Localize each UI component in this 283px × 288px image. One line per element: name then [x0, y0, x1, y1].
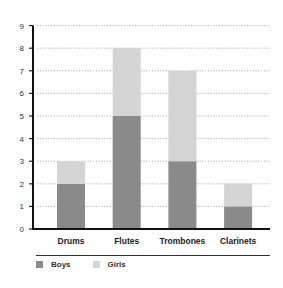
- y-tick-label: 3: [20, 157, 25, 166]
- legend-label-boys: Boys: [51, 260, 71, 269]
- bar-girls-trombones: [168, 71, 196, 161]
- stacked-bar-chart: 0123456789 DrumsFlutesTrombonesClarinets: [0, 0, 283, 288]
- y-tick-label: 6: [20, 89, 25, 98]
- y-tick-label: 4: [20, 135, 25, 144]
- legend-divider: [36, 255, 270, 256]
- bar-boys-clarinets: [224, 206, 252, 229]
- bar-girls-flutes: [113, 48, 141, 116]
- y-tick-label: 2: [20, 180, 25, 189]
- x-category-label: Clarinets: [220, 236, 257, 246]
- x-category-label: Trombones: [159, 236, 205, 246]
- legend-swatch-girls: [93, 261, 100, 268]
- y-tick-label: 1: [20, 202, 25, 211]
- x-category-label: Drums: [58, 236, 85, 246]
- y-tick-label: 0: [20, 225, 25, 234]
- y-axis: 0123456789: [20, 22, 33, 234]
- legend-item-girls: Girls: [93, 260, 126, 269]
- bar-boys-flutes: [113, 116, 141, 229]
- bar-boys-trombones: [168, 161, 196, 229]
- y-tick-label: 9: [20, 22, 25, 31]
- bar-girls-clarinets: [224, 184, 252, 207]
- legend: Boys Girls: [36, 260, 148, 269]
- bar-boys-drums: [57, 184, 85, 229]
- legend-label-girls: Girls: [108, 260, 126, 269]
- y-tick-label: 8: [20, 44, 25, 53]
- y-tick-label: 5: [20, 112, 25, 121]
- bar-girls-drums: [57, 161, 85, 184]
- legend-swatch-boys: [36, 261, 43, 268]
- x-axis: DrumsFlutesTrombonesClarinets: [32, 229, 270, 246]
- legend-item-boys: Boys: [36, 260, 71, 269]
- x-category-label: Flutes: [114, 236, 139, 246]
- y-tick-label: 7: [20, 67, 25, 76]
